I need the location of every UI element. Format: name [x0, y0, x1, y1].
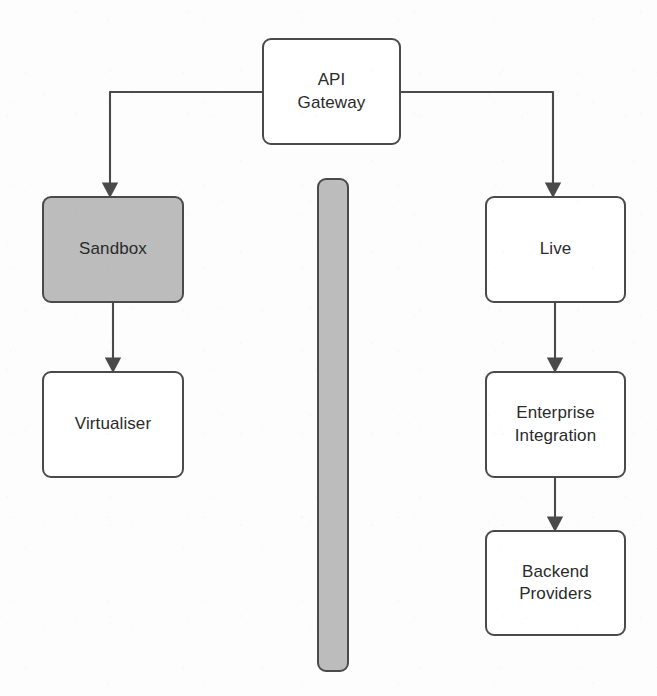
edge-api-gateway-to-live — [401, 92, 553, 190]
vertical-divider-bar — [317, 178, 349, 672]
node-api-gateway: API Gateway — [262, 38, 401, 145]
diagram-canvas: API Gateway Sandbox Virtualiser Live Ent… — [0, 0, 657, 696]
node-live: Live — [485, 196, 626, 303]
node-virtualiser: Virtualiser — [42, 371, 184, 478]
node-enterprise-integration: Enterprise Integration — [485, 371, 626, 478]
node-backend-providers: Backend Providers — [485, 530, 626, 636]
edge-api-gateway-to-sandbox — [110, 92, 262, 190]
node-sandbox: Sandbox — [42, 196, 184, 303]
